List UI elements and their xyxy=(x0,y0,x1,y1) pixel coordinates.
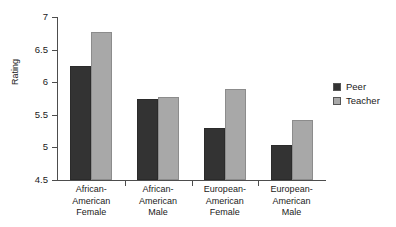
legend-item: Teacher xyxy=(333,94,380,108)
category-label: African- American Male xyxy=(125,184,192,219)
category-label: European- American Male xyxy=(258,184,325,219)
y-axis-tick-label: 6.5 xyxy=(8,45,48,55)
y-axis-tick xyxy=(52,180,58,181)
bar-peer xyxy=(137,99,158,181)
bar-chart: Rating 76.565.554.5 African- American Fe… xyxy=(0,0,396,227)
plot-area xyxy=(58,17,325,180)
legend-swatch-peer xyxy=(333,83,341,91)
category-label: African- American Female xyxy=(58,184,125,219)
category-label: European- American Female xyxy=(192,184,259,219)
y-axis-tick-label: 6 xyxy=(8,77,48,87)
bar-teacher xyxy=(158,97,179,180)
legend-swatch-teacher xyxy=(333,97,341,105)
bar-teacher xyxy=(292,120,313,180)
y-axis-tick-label: 5.5 xyxy=(8,110,48,120)
legend-item: Peer xyxy=(333,80,380,94)
bar-teacher xyxy=(225,89,246,180)
bar-teacher xyxy=(91,32,112,180)
y-axis-tick-label: 4.5 xyxy=(8,175,48,185)
bar-peer xyxy=(271,145,292,180)
y-axis-tick-label: 5 xyxy=(8,142,48,152)
bar-peer xyxy=(204,128,225,180)
legend-label: Peer xyxy=(346,82,366,92)
legend-label: Teacher xyxy=(346,96,380,106)
bar-peer xyxy=(70,66,91,180)
chart-legend: PeerTeacher xyxy=(333,80,380,108)
y-axis-tick-label: 7 xyxy=(8,12,48,22)
